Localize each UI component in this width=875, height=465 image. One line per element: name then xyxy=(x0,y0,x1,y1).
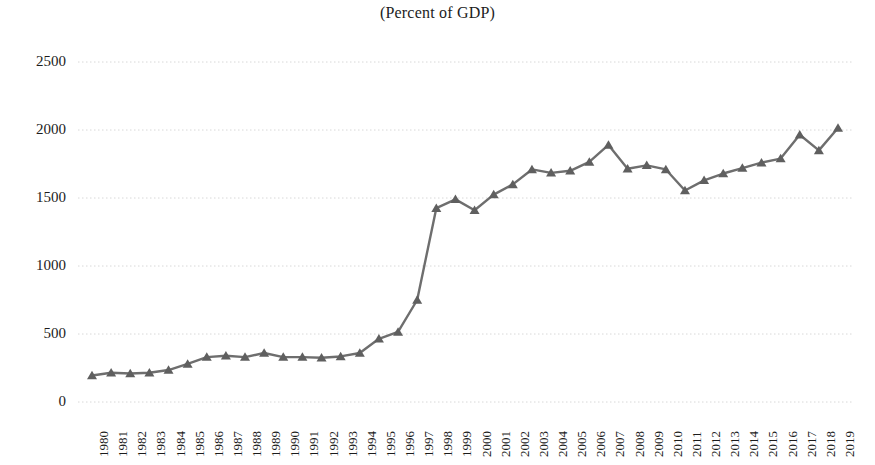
x-axis-tick-label: 1997 xyxy=(422,431,435,457)
y-axis-tick-label: 2500 xyxy=(36,54,66,69)
x-axis-tick-label: 2005 xyxy=(575,431,588,457)
chart-canvas xyxy=(0,0,875,465)
y-axis-tick-label: 0 xyxy=(59,394,67,409)
x-axis-tick-label: 1998 xyxy=(441,431,454,457)
x-axis-tick-label: 2004 xyxy=(556,431,569,457)
gridlines-group xyxy=(78,62,852,402)
y-axis-tick-label: 2000 xyxy=(36,122,66,137)
x-axis-tick-label: 1982 xyxy=(135,431,148,457)
data-point-marker xyxy=(489,190,499,199)
data-point-marker xyxy=(833,123,843,132)
x-axis-tick-label: 1990 xyxy=(288,431,301,457)
x-axis-tick-label: 1981 xyxy=(116,431,129,457)
x-axis-tick-label: 2015 xyxy=(766,431,779,457)
x-axis-tick-label: 1992 xyxy=(327,431,340,457)
x-axis-tick-label: 1980 xyxy=(97,431,110,457)
data-line-group xyxy=(92,128,838,376)
data-point-marker xyxy=(795,130,805,139)
x-axis-tick-label: 1991 xyxy=(307,431,320,457)
x-axis-tick-label: 2012 xyxy=(709,431,722,457)
x-axis-tick-label: 2011 xyxy=(690,431,703,457)
x-axis-tick-label: 2002 xyxy=(518,431,531,457)
data-point-marker xyxy=(412,295,422,304)
x-axis-tick-label: 1995 xyxy=(384,431,397,457)
x-axis-tick-label: 2003 xyxy=(537,431,550,457)
x-axis-tick-label: 2006 xyxy=(594,431,607,457)
plot-area: 25002000150010005000 1980198119821983198… xyxy=(0,0,875,465)
x-axis-tick-label: 2014 xyxy=(747,431,760,457)
data-point-marker xyxy=(393,327,403,336)
data-point-marker xyxy=(450,195,460,204)
x-axis-tick-label: 2017 xyxy=(805,431,818,457)
x-axis-tick-label: 2001 xyxy=(499,431,512,457)
x-axis-tick-label: 1988 xyxy=(250,431,263,457)
x-axis-tick-label: 1983 xyxy=(154,431,167,457)
x-axis-tick-label: 1996 xyxy=(403,431,416,457)
data-line xyxy=(92,128,838,376)
x-axis-tick-label: 2019 xyxy=(843,431,856,457)
x-axis-tick-label: 2009 xyxy=(652,431,665,457)
y-axis-tick-label: 1500 xyxy=(36,190,66,205)
y-axis-tick-label: 500 xyxy=(44,326,67,341)
x-axis-tick-label: 2007 xyxy=(613,431,626,457)
x-axis-tick-label: 1985 xyxy=(193,431,206,457)
chart-container: (Percent of GDP) 25002000150010005000 19… xyxy=(0,0,875,465)
x-axis-tick-label: 1987 xyxy=(231,431,244,457)
x-axis-tick-label: 2018 xyxy=(824,431,837,457)
x-axis-tick-label: 1993 xyxy=(346,431,359,457)
x-axis-tick-label: 1994 xyxy=(365,431,378,457)
x-axis-tick-label: 1984 xyxy=(174,431,187,457)
x-axis-tick-label: 2013 xyxy=(728,431,741,457)
x-axis-tick-label: 1986 xyxy=(212,431,225,457)
data-point-marker xyxy=(603,140,613,149)
y-axis-tick-label: 1000 xyxy=(36,258,66,273)
x-axis-tick-label: 2008 xyxy=(633,431,646,457)
data-point-marker xyxy=(259,348,269,357)
x-axis-tick-label: 2000 xyxy=(480,431,493,457)
x-axis-tick-label: 2016 xyxy=(786,431,799,457)
x-axis-tick-label: 2010 xyxy=(671,431,684,457)
data-markers-group xyxy=(87,123,843,379)
x-axis-tick-label: 1989 xyxy=(269,431,282,457)
x-axis-tick-label: 1999 xyxy=(460,431,473,457)
